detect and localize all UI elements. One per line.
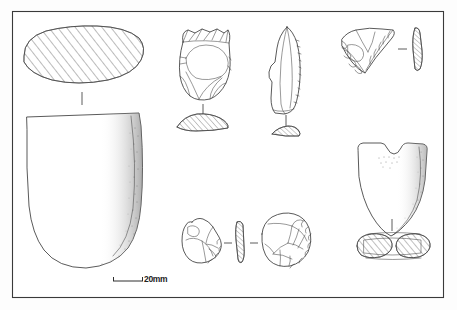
illustration-plate: 20mm bbox=[0, 0, 457, 310]
figure-polished-stone-adze bbox=[24, 26, 145, 272]
face-view-adze-blade bbox=[27, 110, 145, 272]
plate-canvas bbox=[0, 0, 457, 310]
scale-bar-label: 20mm bbox=[144, 274, 167, 284]
